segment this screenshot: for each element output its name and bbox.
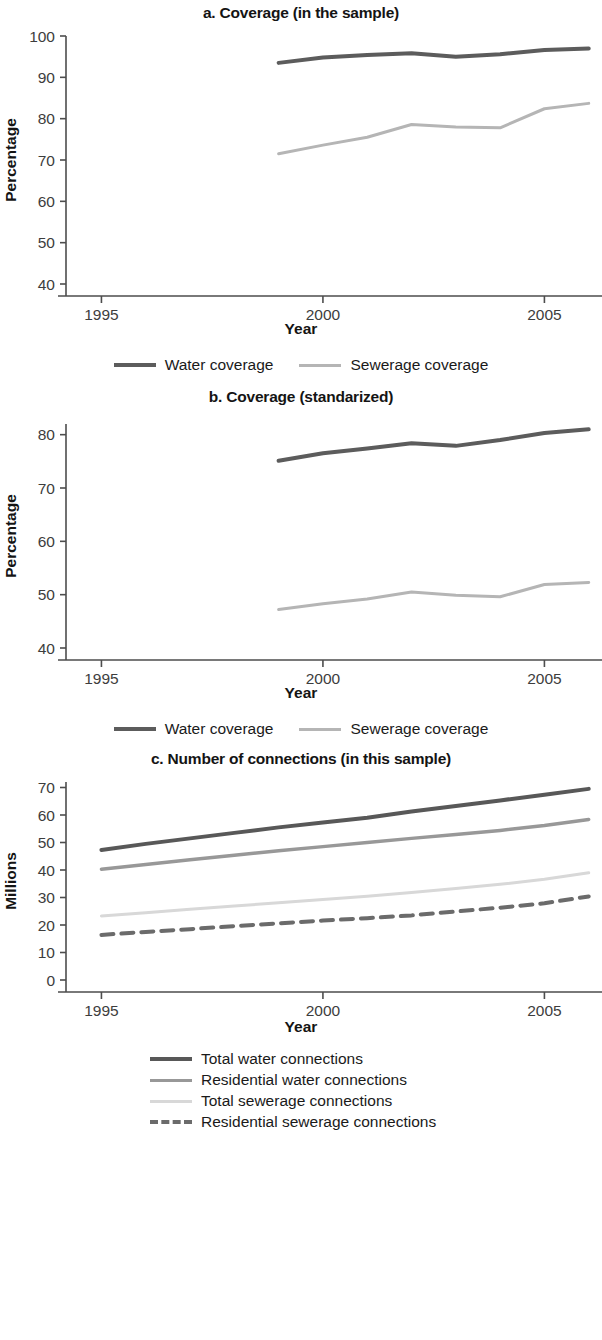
panel-c-xaxis-title: Year (0, 1018, 602, 1036)
panel-a-plot: 405060708090100199520002005Percentage (0, 22, 602, 322)
y-tick-label: 0 (46, 972, 55, 989)
x-tick-label: 2000 (306, 306, 341, 322)
panel-a-svg: 405060708090100199520002005Percentage (0, 22, 602, 322)
panel-a-xaxis-title: Year (0, 320, 602, 338)
y-tick-label: 70 (38, 152, 56, 169)
legend-item: Residential water connections (150, 1071, 407, 1089)
legend-item: Water coverage (114, 720, 274, 738)
legend-item: Total sewerage connections (150, 1092, 392, 1110)
panel-c-legend: Total water connectionsResidential water… (0, 1050, 602, 1131)
legend-item: Water coverage (114, 356, 274, 374)
y-tick-label: 60 (38, 533, 56, 550)
legend-swatch-icon (114, 727, 156, 731)
y-tick-label: 50 (38, 234, 56, 251)
series-line (279, 582, 589, 609)
x-tick-label: 2005 (527, 1002, 561, 1018)
y-tick-label: 50 (38, 586, 56, 603)
y-tick-label: 80 (38, 110, 56, 127)
y-tick-label: 10 (38, 944, 56, 961)
y-tick-label: 70 (38, 779, 56, 796)
legend-item: Residential sewerage connections (150, 1113, 436, 1131)
y-tick-label: 40 (38, 640, 56, 657)
panel-b-svg: 4050607080199520002005Percentage (0, 406, 602, 686)
legend-swatch-icon (114, 363, 156, 367)
panel-b-plot: 4050607080199520002005Percentage (0, 406, 602, 686)
panel-c-plot: 010203040506070199520002005Millions (0, 768, 602, 1018)
legend-label: Residential water connections (201, 1071, 407, 1089)
legend-label: Total water connections (201, 1050, 363, 1068)
legend-label: Residential sewerage connections (201, 1113, 436, 1131)
panel-c-svg: 010203040506070199520002005Millions (0, 768, 602, 1018)
y-tick-label: 50 (38, 834, 56, 851)
panel-b-title: b. Coverage (standarized) (0, 388, 602, 406)
panel-c-title: c. Number of connections (in this sample… (0, 750, 602, 768)
legend-swatch-icon (150, 1079, 192, 1082)
panel-b-legend: Water coverageSewerage coverage (0, 720, 602, 738)
legend-label: Water coverage (165, 720, 274, 738)
legend-item: Sewerage coverage (299, 720, 488, 738)
y-tick-label: 20 (38, 917, 56, 934)
series-line (101, 873, 588, 916)
panel-c: c. Number of connections (in this sample… (0, 750, 602, 1131)
y-tick-label: 40 (38, 862, 56, 879)
x-tick-label: 1995 (84, 1002, 118, 1018)
legend-item: Total water connections (150, 1050, 363, 1068)
legend-swatch-icon (150, 1120, 192, 1124)
legend-item: Sewerage coverage (299, 356, 488, 374)
x-tick-label: 1995 (84, 306, 118, 322)
series-line (279, 429, 589, 460)
legend-swatch-icon (150, 1057, 192, 1061)
legend-label: Water coverage (165, 356, 274, 374)
x-tick-label: 2000 (306, 670, 341, 686)
legend-label: Sewerage coverage (350, 720, 488, 738)
y-axis-title: Percentage (2, 494, 19, 578)
panel-a-title: a. Coverage (in the sample) (0, 0, 602, 22)
y-tick-label: 100 (29, 28, 55, 45)
legend-label: Total sewerage connections (201, 1092, 392, 1110)
x-tick-label: 2005 (527, 670, 561, 686)
y-tick-label: 70 (38, 480, 56, 497)
series-line (101, 896, 588, 935)
x-tick-label: 2000 (306, 1002, 341, 1018)
x-tick-label: 2005 (527, 306, 561, 322)
legend-swatch-icon (150, 1100, 192, 1103)
legend-label: Sewerage coverage (350, 356, 488, 374)
y-tick-label: 60 (38, 807, 56, 824)
y-tick-label: 80 (38, 426, 56, 443)
y-axis-title: Millions (2, 852, 19, 910)
series-line (279, 48, 589, 62)
y-axis-title: Percentage (2, 118, 19, 202)
panel-b: b. Coverage (standarized) 40506070801995… (0, 388, 602, 738)
panel-a-legend: Water coverageSewerage coverage (0, 356, 602, 374)
series-line (101, 789, 588, 850)
x-tick-label: 1995 (84, 670, 118, 686)
y-tick-label: 60 (38, 193, 56, 210)
y-tick-label: 30 (38, 889, 56, 906)
legend-swatch-icon (299, 364, 341, 367)
y-tick-label: 40 (38, 276, 56, 293)
panel-a: a. Coverage (in the sample) 405060708090… (0, 0, 602, 374)
panel-b-xaxis-title: Year (0, 684, 602, 702)
series-line (101, 819, 588, 869)
legend-swatch-icon (299, 728, 341, 731)
y-tick-label: 90 (38, 69, 56, 86)
series-line (279, 103, 589, 153)
